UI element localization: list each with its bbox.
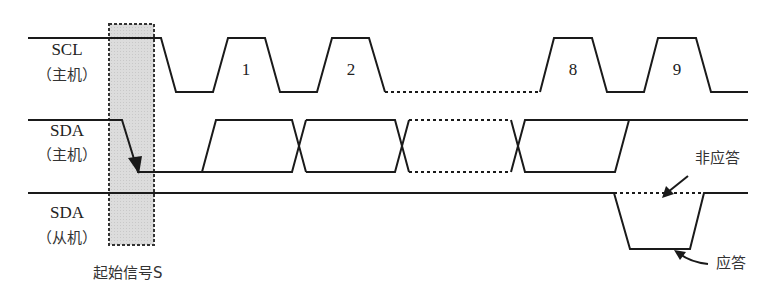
clock-label-1: 1: [242, 60, 251, 79]
ack-label: 应答: [716, 254, 746, 272]
sda-master-bit1-low: [202, 120, 306, 172]
sda-master-bit2: [306, 120, 409, 172]
ack-arrow: [680, 254, 708, 264]
sda-slave-ack-pulse: [614, 193, 748, 249]
svg-text:SDA: SDA: [50, 203, 85, 222]
i2c-timing-diagram: SCL （主机） SDA （主机） SDA （从机） 1 2 8 9 非应答 应…: [0, 0, 774, 296]
svg-text:SDA: SDA: [50, 121, 85, 140]
svg-text:（主机）: （主机）: [37, 66, 97, 84]
svg-text:SCL: SCL: [51, 40, 82, 59]
nack-arrow: [668, 176, 688, 192]
start-signal-region: [109, 24, 154, 245]
sda-master-label: SDA （主机）: [37, 121, 97, 164]
svg-text:（从机）: （从机）: [37, 229, 97, 247]
ack-arrow-head-icon: [674, 250, 686, 260]
scl-master-label: SCL （主机）: [37, 40, 97, 84]
nack-label: 非应答: [695, 149, 740, 167]
clock-label-8: 8: [569, 60, 578, 79]
svg-text:（主机）: （主机）: [37, 146, 97, 164]
start-signal-label: 起始信号S: [93, 264, 163, 282]
sda-master-bit2-low: [306, 120, 409, 172]
sda-slave-label: SDA （从机）: [37, 203, 97, 247]
sda-master-bit8: [511, 120, 629, 172]
clock-label-2: 2: [347, 60, 356, 79]
sda-master-bit1: [202, 120, 306, 172]
clock-label-9: 9: [673, 60, 682, 79]
